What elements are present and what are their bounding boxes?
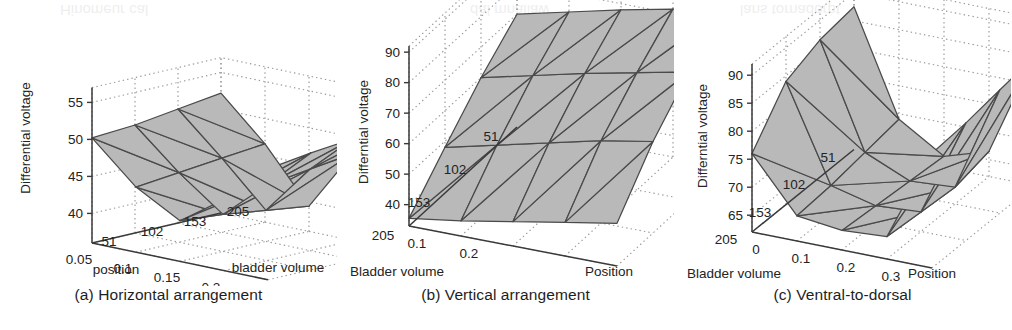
z-tick-label: 45 — [68, 169, 83, 184]
x-tick-label: 0.05 — [66, 252, 92, 267]
z-tick-label: 40 — [385, 197, 400, 212]
x-axis-label: position — [93, 262, 140, 277]
y-tick-label: 51 — [820, 150, 835, 165]
x-axis-spine — [409, 226, 617, 266]
x-tick-label: 0.1 — [408, 236, 427, 251]
z-tick-label: 50 — [68, 132, 83, 147]
x-axis-label: Position — [585, 264, 633, 279]
surface-plot-a: 404550550.050.10.150.20.2551102153205pos… — [0, 0, 337, 286]
panel-a: 404550550.050.10.150.20.2551102153205pos… — [0, 0, 337, 330]
surface-group — [752, 7, 1011, 237]
grid-ring — [752, 0, 1011, 75]
z-tick-label: 75 — [728, 152, 743, 167]
y-tick-label: 153 — [749, 205, 772, 220]
z-axis-label: Differntial voltage — [356, 80, 371, 184]
z-tick-label: 40 — [68, 206, 83, 221]
grid-rim — [92, 58, 337, 95]
y-tick-label: 51 — [101, 234, 116, 249]
y-tick-label: 205 — [227, 204, 250, 219]
z-tick-label: 70 — [728, 180, 743, 195]
z-axis-label: Differntial voltage — [695, 84, 710, 188]
x-tick-label: 0.2 — [460, 246, 479, 261]
z-axis-label: Differential voltage — [18, 82, 33, 194]
panel-c: 65707580859000.10.20.320515310251Positio… — [674, 0, 1011, 330]
surface-group — [409, 8, 674, 223]
panel-b: 4050607080900.10.220515310251PositionBla… — [337, 0, 674, 330]
surface-group — [92, 93, 337, 221]
x-tick-label: 0 — [752, 242, 760, 257]
z-tick-label: 80 — [728, 124, 743, 139]
x-tick-label: 0.2 — [837, 260, 856, 275]
panel-c-caption: (c) Ventral-to-dorsal — [674, 286, 1011, 304]
z-tick-label: 70 — [385, 106, 400, 121]
z-tick-label: 90 — [385, 45, 400, 60]
surface-plot-c: 65707580859000.10.20.320515310251Positio… — [674, 0, 1011, 286]
panel-a-caption: (a) Horizontal arrangement — [0, 286, 337, 304]
y-tick-label: 102 — [444, 162, 467, 177]
z-tick-label: 50 — [385, 167, 400, 182]
y-tick-label: 102 — [141, 224, 164, 239]
y-tick-label: 51 — [483, 129, 498, 144]
grid-floor-line — [932, 186, 1011, 269]
figure-container: Hinomeur cal dal mnallaw lans tornadorpt… — [0, 0, 1012, 330]
z-tick-label: 90 — [728, 68, 743, 83]
z-tick-label: 65 — [728, 208, 743, 223]
x-tick-label: 0.15 — [154, 270, 180, 285]
y-tick-label: 102 — [783, 177, 806, 192]
y-tick-label: 205 — [372, 228, 395, 243]
y-tick-label: 153 — [184, 214, 207, 229]
y-tick-label: 205 — [715, 232, 738, 247]
grid-floor-line — [180, 231, 309, 261]
surface-plot-b: 4050607080900.10.220515310251PositionBla… — [337, 0, 674, 286]
panel-b-caption: (b) Vertical arrangement — [337, 286, 674, 304]
y-axis-label: Bladder volume — [687, 266, 781, 281]
grid-rim — [752, 0, 1011, 64]
x-axis-label: Position — [908, 266, 956, 281]
z-tick-label: 80 — [385, 75, 400, 90]
z-tick-label: 60 — [385, 136, 400, 151]
y-tick-label: 153 — [408, 195, 431, 210]
x-tick-label: 0.1 — [792, 251, 811, 266]
x-tick-label: 0.3 — [882, 269, 901, 284]
y-axis-label: Bladder volume — [350, 264, 444, 279]
z-tick-label: 85 — [728, 96, 743, 111]
y-axis-label: bladder volume — [232, 260, 324, 275]
z-tick-label: 55 — [68, 95, 83, 110]
